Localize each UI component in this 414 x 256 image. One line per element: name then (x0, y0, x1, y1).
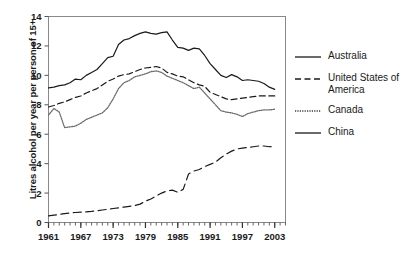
y-tick-label: 8 (36, 99, 41, 110)
legend-line-swatch (295, 50, 321, 63)
y-tick-label: 10 (31, 70, 42, 81)
chart-container: Litres alcohol per year per person of 15… (0, 0, 414, 256)
y-tick-label: 2 (36, 188, 41, 199)
legend-item[interactable]: Australia (295, 50, 413, 63)
x-tick-label: 1979 (135, 231, 156, 242)
y-tick-label: 0 (36, 217, 41, 228)
x-tick-label: 1961 (38, 231, 60, 242)
x-tick-label: 1991 (200, 231, 222, 242)
y-tick-label: 12 (31, 40, 42, 51)
chart-legend: AustraliaUnited States of AmericaCanadaC… (295, 50, 413, 148)
x-tick-label: 1967 (70, 231, 91, 242)
axes-frame (49, 17, 286, 223)
x-tick-label: 1985 (167, 231, 189, 242)
legend-label: Canada (328, 104, 363, 116)
legend-item[interactable]: Canada (295, 104, 413, 117)
series-line-china (49, 146, 275, 216)
legend-line-swatch (295, 104, 321, 117)
y-tick-label: 14 (31, 11, 42, 22)
legend-item[interactable]: China (295, 126, 413, 139)
x-tick-label: 2003 (264, 231, 285, 242)
legend-line-swatch (295, 72, 321, 85)
series-line-australia (49, 32, 275, 89)
x-tick-label: 1997 (232, 231, 253, 242)
legend-label: United States of America (328, 72, 399, 95)
legend-line-swatch (295, 126, 321, 139)
x-tick-label: 1973 (103, 231, 124, 242)
y-tick-label: 4 (36, 158, 42, 169)
legend-label: Australia (328, 50, 367, 62)
legend-label: China (328, 126, 354, 138)
legend-item[interactable]: United States of America (295, 72, 413, 95)
y-tick-label: 6 (36, 129, 41, 140)
